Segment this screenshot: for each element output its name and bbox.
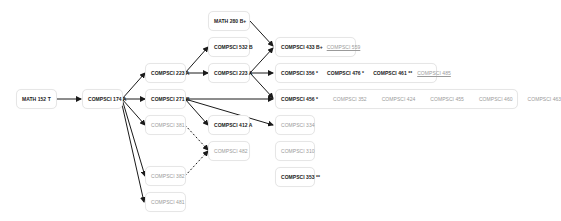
- edge-cs271-cs412: [185, 99, 208, 125]
- course-cs481[interactable]: COMPSCI 481: [151, 199, 185, 205]
- edge-cs323-row456: [250, 73, 273, 98]
- node-cs482: COMPSCI 482: [208, 141, 250, 161]
- course-cs424[interactable]: COMPSCI 424: [382, 96, 416, 102]
- course-cs463[interactable]: COMPSCI 463: [528, 96, 561, 102]
- node-cs323: COMPSCI 223 A: [208, 63, 250, 83]
- course-cs323[interactable]: COMPSCI 223 A: [214, 70, 253, 76]
- node-math280: MATH 280 B+: [208, 11, 250, 31]
- course-cs460[interactable]: COMPSCI 460: [479, 96, 513, 102]
- edge-math280-row433: [250, 21, 273, 46]
- course-cs382[interactable]: COMPSCI 382: [151, 173, 185, 179]
- node-cs271: COMPSCI 271 B: [145, 89, 186, 109]
- course-cs352[interactable]: COMPSCI 352: [333, 96, 367, 102]
- course-cs482[interactable]: COMPSCI 482: [214, 148, 248, 154]
- node-cs532: COMPSCI 532 B: [208, 37, 250, 57]
- node-cs334: COMPSCI 334: [275, 115, 315, 135]
- node-math152: MATH 152 T: [16, 89, 57, 109]
- course-cs485-link[interactable]: COMPSCI 485: [417, 70, 451, 76]
- course-math152[interactable]: MATH 152 T: [22, 96, 51, 102]
- node-cs223: COMPSCI 223 A: [145, 63, 186, 83]
- edge-cs174-cs382: [122, 99, 145, 176]
- course-cs476[interactable]: COMPSCI 476 *: [327, 70, 364, 76]
- course-cs353[interactable]: COMPSCI 353 **: [281, 174, 320, 180]
- node-row356: COMPSCI 356 * COMPSCI 476 * COMPSCI 461 …: [275, 63, 437, 83]
- edge-cs174-cs481: [121, 100, 144, 202]
- course-cs310[interactable]: COMPSCI 310: [281, 148, 315, 154]
- node-row433: COMPSCI 433 B+ COMPSCI 559: [275, 37, 356, 57]
- course-cs455[interactable]: COMPSCI 455: [430, 96, 464, 102]
- course-cs433[interactable]: COMPSCI 433 B+: [281, 44, 323, 50]
- course-cs412[interactable]: COMPSCI 412 A: [214, 122, 253, 128]
- course-cs334[interactable]: COMPSCI 334: [281, 122, 315, 128]
- course-cs461[interactable]: COMPSCI 461 **: [373, 70, 412, 76]
- node-row456: COMPSCI 456 * COMPSCI 352 COMPSCI 424 CO…: [275, 89, 518, 109]
- course-cs223[interactable]: COMPSCI 223 A: [151, 70, 190, 76]
- course-math280[interactable]: MATH 280 B+: [214, 18, 246, 24]
- course-cs271[interactable]: COMPSCI 271 B: [151, 96, 190, 102]
- course-cs356[interactable]: COMPSCI 356 *: [281, 70, 318, 76]
- node-cs174: COMPSCI 174 A: [82, 89, 123, 109]
- course-cs381[interactable]: COMPSCI 381: [151, 122, 185, 128]
- edge-cs381-cs482: [185, 125, 208, 150]
- node-cs412: COMPSCI 412 A: [208, 115, 250, 135]
- node-cs310: COMPSCI 310: [275, 141, 315, 161]
- edge-cs382-cs482: [185, 151, 208, 176]
- node-cs353: COMPSCI 353 **: [275, 167, 315, 187]
- node-cs481: COMPSCI 481: [145, 192, 186, 212]
- edge-cs174-cs381: [122, 99, 145, 125]
- course-cs456[interactable]: COMPSCI 456 *: [281, 96, 318, 102]
- node-cs381: COMPSCI 381: [145, 115, 186, 135]
- course-cs559-link[interactable]: COMPSCI 559: [327, 44, 361, 50]
- course-cs174[interactable]: COMPSCI 174 A: [88, 96, 127, 102]
- edge-cs323-row433: [250, 48, 273, 73]
- course-cs532[interactable]: COMPSCI 532 B: [214, 44, 253, 50]
- node-cs382: COMPSCI 382: [145, 166, 186, 186]
